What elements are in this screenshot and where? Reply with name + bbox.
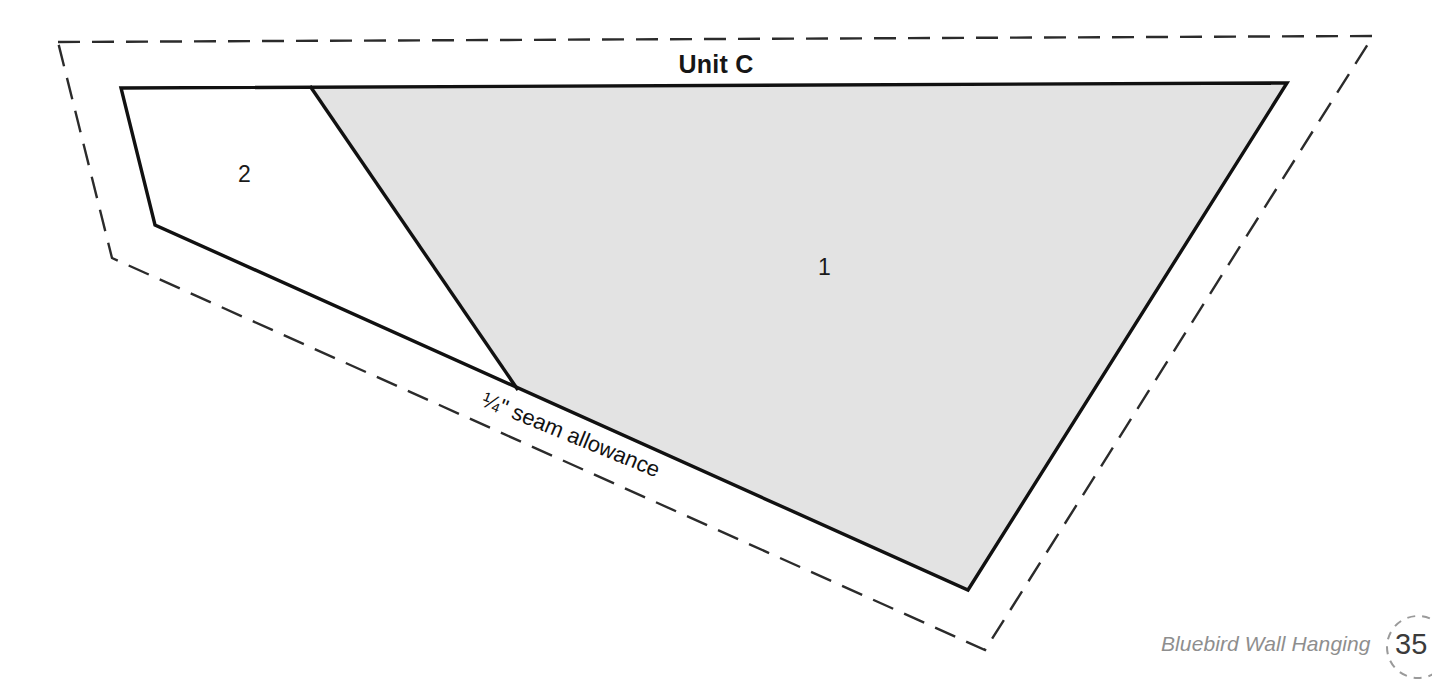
page-title: Unit C — [0, 50, 1432, 79]
page-number-badge: 35 — [1385, 614, 1432, 680]
piece-label-2: 2 — [238, 161, 251, 188]
pattern-svg — [0, 0, 1432, 693]
project-caption: Bluebird Wall Hanging — [1161, 632, 1371, 656]
pattern-diagram: Unit C 2 1 ¼" seam allowance Bluebird Wa… — [0, 0, 1432, 693]
page-number: 35 — [1395, 628, 1427, 661]
piece-label-1: 1 — [818, 254, 831, 281]
